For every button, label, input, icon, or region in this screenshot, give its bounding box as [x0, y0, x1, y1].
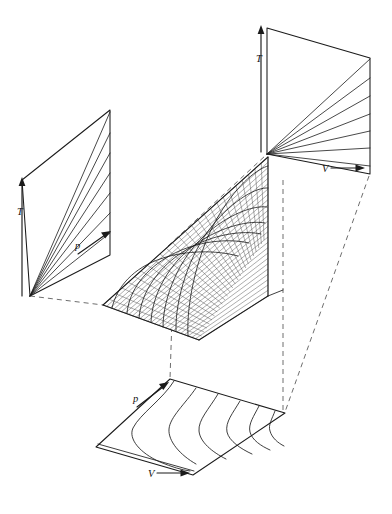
left-T-axis-label: T [17, 206, 24, 217]
topright-panel-face [267, 28, 370, 174]
bottom-p-axis-label: p [132, 393, 138, 404]
pvt-surface [103, 157, 283, 340]
surface-right-wall-edge [268, 290, 283, 296]
bottom-projection-panel: p V [96, 379, 285, 479]
topright-T-axis: T [256, 25, 264, 152]
left-projection-panel: T p [17, 110, 111, 296]
connector-left-to-surface [30, 296, 103, 305]
bottom-V-axis-label: V [148, 468, 156, 479]
topright-T-axis-label: T [256, 53, 263, 64]
pvt-diagram-canvas: T p T V [0, 0, 392, 514]
connector-topright-to-bottom [285, 176, 369, 412]
left-p-axis-label: p [74, 240, 80, 251]
topright-projection-panel: T V [256, 25, 370, 174]
pvt-figure: T p T V [0, 0, 392, 514]
